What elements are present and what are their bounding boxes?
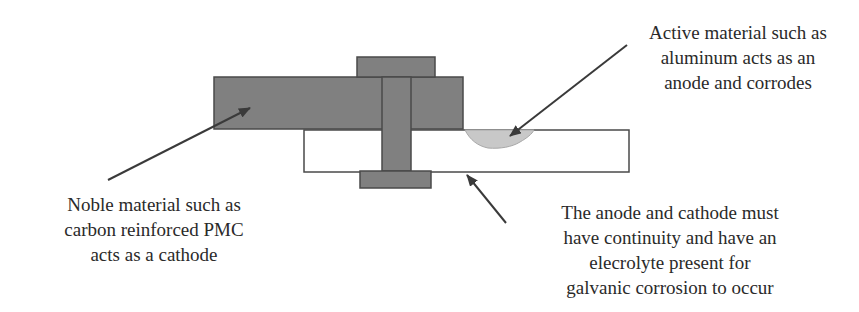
continuity-label-line: The anode and cathode must xyxy=(500,200,840,225)
cathode-label: Noble material such as carbon reinforced… xyxy=(4,192,304,267)
anode-label-line: anode and corrodes xyxy=(618,70,858,95)
cathode-label-line: acts as a cathode xyxy=(4,242,304,267)
cathode-label-line: Noble material such as xyxy=(4,192,304,217)
continuity-label-line: galvanic corrosion to occur xyxy=(500,275,840,300)
anode-label: Active material such as aluminum acts as… xyxy=(618,20,858,95)
arrow-to-anode-corrosion xyxy=(510,45,627,136)
bolt-shaft xyxy=(382,77,411,171)
cathode-plate xyxy=(214,77,463,129)
anode-label-line: Active material such as xyxy=(618,20,858,45)
continuity-label-line: elecrolyte present for xyxy=(500,250,840,275)
cathode-label-line: carbon reinforced PMC xyxy=(4,217,304,242)
continuity-label: The anode and cathode must have continui… xyxy=(500,200,840,300)
nut xyxy=(360,171,431,188)
anode-label-line: aluminum acts as an xyxy=(618,45,858,70)
anode-plate xyxy=(304,130,629,172)
arrow-to-cathode xyxy=(108,108,250,180)
bolt-head xyxy=(357,57,435,77)
continuity-label-line: have continuity and have an xyxy=(500,225,840,250)
